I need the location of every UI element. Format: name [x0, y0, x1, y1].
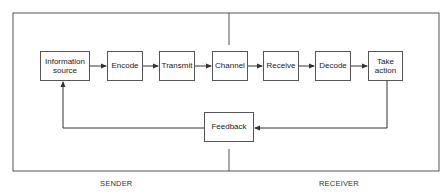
node-label: Encode [111, 61, 138, 71]
node-label: Transmit [162, 61, 193, 71]
zone-label-receiver: RECEIVER [319, 179, 359, 188]
zone-label-sender: SENDER [100, 179, 132, 188]
node-transmit: Transmit [159, 51, 195, 81]
node-label: Receive [267, 61, 296, 71]
node-label: Feedback [211, 122, 246, 132]
node-label: Take action [374, 57, 398, 76]
node-decode: Decode [315, 51, 351, 81]
node-encode: Encode [107, 51, 143, 81]
connector-lines [0, 0, 447, 192]
arrow-action-feedback [255, 81, 387, 128]
node-feedback: Feedback [204, 112, 254, 142]
outer-frame [13, 13, 439, 171]
node-information-source: Information source [40, 51, 90, 81]
arrow-feedback-source [63, 82, 204, 128]
node-take-action: Take action [368, 51, 403, 81]
node-channel: Channel [212, 51, 248, 81]
node-label: Channel [215, 61, 245, 71]
node-label: Decode [319, 61, 347, 71]
node-label: Information source [41, 57, 89, 76]
node-receive: Receive [263, 51, 299, 81]
communication-diagram: Information source Encode Transmit Chann… [0, 0, 447, 192]
